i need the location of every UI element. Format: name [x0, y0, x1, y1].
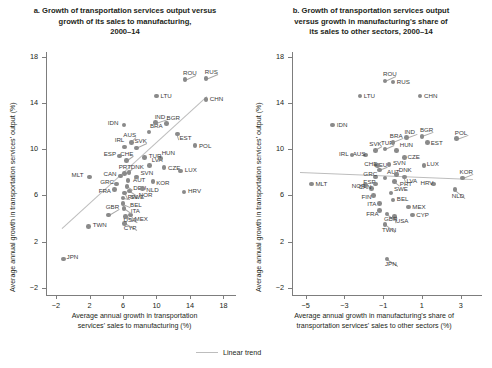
data-point-mlt[interactable] [309, 182, 314, 187]
data-point-pol[interactable] [454, 136, 459, 141]
data-point-swe[interactable] [121, 196, 126, 201]
data-point-che[interactable] [124, 158, 129, 163]
data-point-prt[interactable] [392, 179, 397, 184]
panel-a-title: a. Growth of transportation services out… [14, 6, 236, 38]
data-point-deu[interactable] [377, 168, 382, 173]
data-point-gbr[interactable] [106, 213, 111, 218]
data-point-rou[interactable] [183, 77, 188, 82]
data-point-idn[interactable] [330, 123, 335, 128]
data-label-svn: SVN [393, 159, 406, 166]
data-point-chn[interactable] [204, 97, 209, 102]
data-label-ita: ITA [367, 200, 376, 207]
data-point-est[interactable] [425, 140, 430, 145]
data-point-svk[interactable] [373, 148, 378, 153]
data-point-bgr[interactable] [420, 134, 425, 139]
data-point-svn[interactable] [387, 162, 392, 167]
data-point-ita[interactable] [377, 201, 382, 206]
data-label-irl: IRL [339, 150, 349, 157]
data-label-ita: ITA [131, 207, 140, 214]
data-label-fin: FIN [361, 193, 371, 200]
data-label-fra: FRA [366, 210, 378, 217]
data-label-lux: LUX [185, 166, 197, 173]
data-label-chn: CHN [424, 92, 437, 99]
y-tick [288, 57, 292, 58]
data-point-hun[interactable] [394, 148, 399, 153]
data-point-cze[interactable] [162, 165, 167, 170]
data-label-hrv: HRV [421, 179, 434, 186]
data-label-idn: IDN [337, 121, 348, 128]
data-point-lva[interactable] [147, 163, 152, 168]
data-point-rus[interactable] [391, 80, 396, 85]
data-point-mlt[interactable] [87, 175, 92, 180]
y-tick-label: 10 [266, 144, 284, 153]
data-point-pol[interactable] [193, 143, 198, 148]
data-label-twn: TWN [93, 221, 107, 228]
data-point-bel[interactable] [391, 198, 396, 203]
data-label-jpn: JPN [385, 260, 397, 267]
data-point-kor[interactable] [151, 179, 156, 184]
data-label-esp: ESP [104, 150, 116, 157]
data-point-aut[interactable] [383, 176, 388, 181]
data-point-rou[interactable] [383, 79, 388, 84]
data-label-ltu: LTU [160, 92, 171, 99]
data-point-fra[interactable] [112, 187, 117, 192]
data-point-dnk[interactable] [394, 172, 399, 177]
data-point-dnk[interactable] [127, 170, 132, 175]
data-point-swe[interactable] [389, 191, 394, 196]
data-point-fin[interactable] [371, 193, 376, 198]
data-point-nld[interactable] [140, 186, 145, 191]
y-tick [42, 288, 46, 289]
data-label-kor: KOR [460, 168, 473, 175]
data-label-dnk: DNK [399, 166, 412, 173]
data-point-cyp[interactable] [410, 213, 415, 218]
x-tick [56, 295, 57, 299]
x-tick [90, 295, 91, 299]
y-tick-label: 14 [266, 98, 284, 107]
data-label-hrv: HRV [188, 187, 201, 194]
x-tick [123, 295, 124, 299]
x-tick [156, 295, 157, 299]
data-point-tur[interactable] [142, 155, 147, 160]
data-point-cze[interactable] [402, 155, 407, 160]
x-tick [461, 295, 462, 299]
data-point-aut[interactable] [126, 178, 131, 183]
data-point-lux[interactable] [422, 163, 427, 168]
panel-b-y-axis-label: Average annual growth in transportation … [255, 102, 263, 292]
data-point-ltu[interactable] [358, 94, 363, 99]
data-point-svn[interactable] [134, 175, 139, 180]
y-tick [288, 195, 292, 196]
data-point-ita[interactable] [122, 206, 127, 211]
data-point-bel[interactable] [121, 201, 126, 206]
data-point-tur[interactable] [383, 147, 388, 152]
legend: Linear trend [196, 348, 261, 357]
data-point-bra[interactable] [391, 140, 396, 145]
data-label-bel: BEL [397, 195, 409, 202]
data-point-esp[interactable] [117, 154, 122, 159]
data-point-mex[interactable] [406, 205, 411, 210]
data-point-irl[interactable] [122, 145, 127, 150]
panel-a-y-axis-label: Average annual growth in transportation … [9, 102, 17, 292]
data-point-grc[interactable] [114, 182, 119, 187]
data-point-ind[interactable] [153, 120, 158, 125]
data-point-twn[interactable] [86, 224, 91, 229]
data-point-svk[interactable] [134, 146, 139, 151]
data-point-bra[interactable] [147, 130, 152, 135]
panel-b-plot-area: −226101418−5−3−113JPNTWNUSACYPGBRFRAMEXI… [292, 52, 482, 295]
y-tick-label: 14 [20, 98, 38, 107]
data-label-prt: PRT [119, 163, 131, 170]
data-point-idn[interactable] [122, 123, 127, 128]
data-point-hrv[interactable] [182, 190, 187, 195]
y-tick [288, 288, 292, 289]
data-point-rus[interactable] [204, 76, 209, 81]
data-point-aus[interactable] [129, 140, 134, 145]
data-point-jpn[interactable] [61, 257, 66, 262]
data-point-bgr[interactable] [164, 121, 169, 126]
data-point-chn[interactable] [418, 94, 423, 99]
data-label-mex: MEX [135, 215, 148, 222]
data-point-ltu[interactable] [154, 94, 159, 99]
data-point-deu[interactable] [125, 184, 130, 189]
data-label-rou: ROU [383, 70, 397, 77]
data-point-lux[interactable] [178, 169, 183, 174]
data-point-ind[interactable] [404, 135, 409, 140]
data-label-can: CAN [103, 170, 116, 177]
